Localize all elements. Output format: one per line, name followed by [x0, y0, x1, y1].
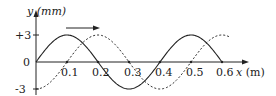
x-tick-label-0.5: 0.5: [186, 67, 204, 78]
x-tick-label-0.2: 0.2: [92, 67, 110, 78]
x-tick-label-0.4: 0.4: [155, 67, 173, 78]
x-axis-unit: (m): [246, 66, 265, 79]
x-tick-label-0.6: 0.6: [216, 67, 234, 78]
x-axis-arrow-icon: [242, 60, 249, 65]
propagation-arrow-icon: [93, 26, 100, 31]
x-tick-label-0.3: 0.3: [124, 67, 142, 78]
y-tick-label-plus3: +3: [15, 30, 31, 41]
y-tick-label-zero: 0: [23, 57, 30, 68]
x-axis-label: x (m): [236, 67, 265, 78]
x-axis-var: x: [236, 66, 242, 79]
y-axis-label-text: y (mm): [27, 5, 66, 18]
x-tick-label-0.1: 0.1: [61, 67, 79, 78]
y-tick-label-minus3: -3: [15, 84, 26, 95]
y-axis-label: y (mm): [27, 6, 66, 17]
